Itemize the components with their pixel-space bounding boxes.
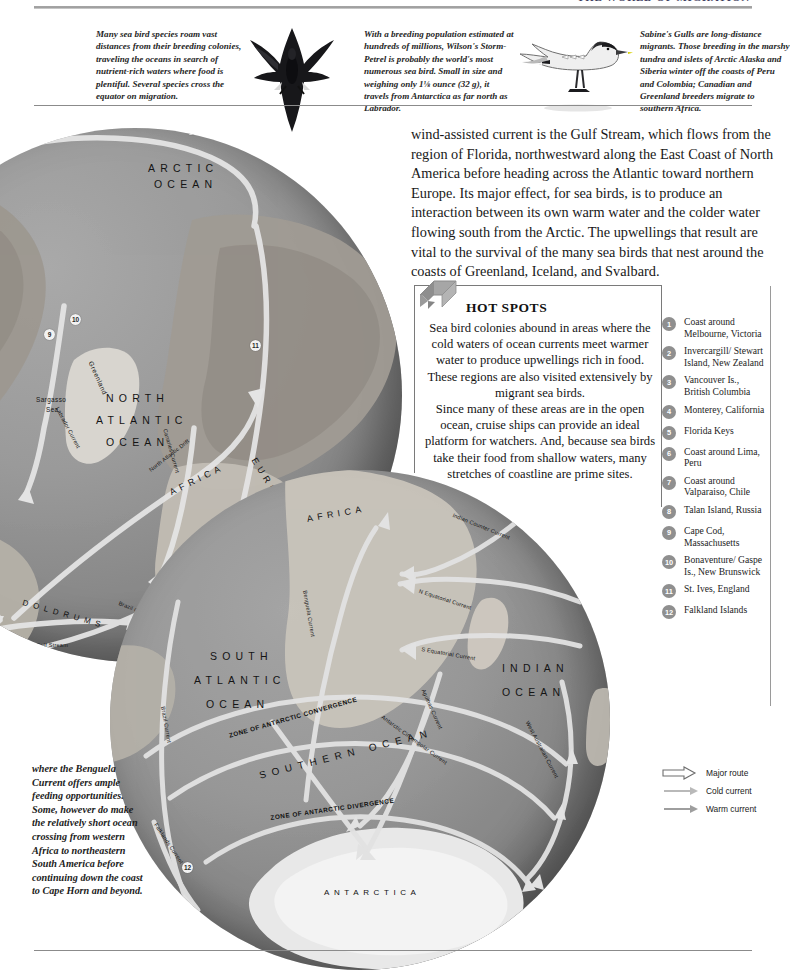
hotspot-list-item[interactable]: 10Bonaventure/ Gaspe Is., New Brunswick	[662, 554, 766, 577]
top-horizontal-rule	[34, 6, 752, 9]
hotspot-list-item[interactable]: 4Monterey, California	[662, 404, 766, 419]
caption-band: Many sea bird species roam vast distance…	[34, 14, 752, 104]
legend-row-major-route: Major route	[662, 764, 772, 782]
hotspot-list-item[interactable]: 5Florida Keys	[662, 425, 766, 440]
legend-label-major-route: Major route	[706, 768, 748, 778]
hot-spots-description: Sea bird colonies abound in areas where …	[422, 320, 658, 482]
hotspot-label: Cape Cod, Massachusetts	[684, 525, 766, 548]
hotspot-label: Invercargill/ Stewart Island, New Zealan…	[684, 345, 766, 368]
hotspot-label: Falkland Islands	[684, 604, 747, 619]
major-route-arrow-icon	[662, 766, 706, 780]
caption-sabines-gulls: Sabine's Gulls are long-distance migrant…	[640, 28, 790, 115]
warm-current-arrow-icon	[662, 802, 706, 816]
hotspot-number-badge: 3	[662, 375, 676, 389]
hotspot-label: Vancouver Is., British Columbia	[684, 374, 766, 397]
hotspot-label: Talan Island, Russia	[684, 504, 761, 519]
hotspot-list-item[interactable]: 12Falkland Islands	[662, 604, 766, 619]
hotspot-list-item[interactable]: 6Coast around Lima, Peru	[662, 446, 766, 469]
hotspot-list-item[interactable]: 2Invercargill/ Stewart Island, New Zeala…	[662, 345, 766, 368]
bottom-horizontal-rule	[34, 950, 752, 951]
hotspot-list-item[interactable]: 8Talan Island, Russia	[662, 504, 766, 519]
hotspot-label: Florida Keys	[684, 425, 734, 440]
legend-label-warm-current: Warm current	[706, 804, 756, 814]
caption-wilsons-storm-petrel: With a breeding population estimated at …	[364, 28, 516, 115]
hotspot-list-item[interactable]: 7Coast around Valparaiso, Chile	[662, 475, 766, 498]
hotspot-list-item[interactable]: 9Cape Cod, Massachusetts	[662, 525, 766, 548]
hotspot-number-badge: 1	[662, 317, 676, 331]
hotspot-number-badge: 11	[662, 584, 676, 598]
hot-spots-paragraph-1: Sea bird colonies abound in areas where …	[427, 321, 652, 400]
hotspot-number-badge: 4	[662, 405, 676, 419]
bottom-left-caption: where the Benguela Current offers ample …	[32, 762, 144, 898]
map-legend: Major route Cold current Warm current	[662, 764, 772, 818]
globe-marker-12[interactable]: 12	[182, 862, 193, 873]
hotspot-list-item[interactable]: 1Coast around Melbourne, Victoria	[662, 316, 766, 339]
legend-row-cold-current: Cold current	[662, 782, 772, 800]
globe-marker-9[interactable]: 9	[44, 329, 55, 340]
hotspot-number-badge: 8	[662, 505, 676, 519]
hotspot-label: St. Ives, England	[684, 583, 750, 598]
ribbon-bookmark-icon	[418, 279, 458, 311]
globe-marker-11[interactable]: 11	[250, 340, 261, 351]
wilsons-storm-petrel-illustration	[234, 20, 354, 132]
southern-hemisphere-globe: AFRICA SOUTH ATLANTIC OCEAN INDIAN OCEAN…	[110, 470, 610, 970]
hot-spots-paragraph-2: Since many of these areas are in the ope…	[422, 401, 658, 482]
right-panel-divider	[770, 286, 771, 706]
hotspot-number-badge: 7	[662, 476, 676, 490]
sabines-gull-illustration	[516, 26, 636, 114]
main-body-paragraph: wind-assisted current is the Gulf Stream…	[411, 125, 777, 282]
page-header-title: THE WORLD OF MIGRATION	[577, 0, 750, 3]
hotspot-label: Coast around Lima, Peru	[684, 446, 766, 469]
hotspot-number-badge: 12	[662, 605, 676, 619]
hotspot-label: Monterey, California	[684, 404, 764, 419]
hotspot-number-badge: 2	[662, 346, 676, 360]
legend-row-warm-current: Warm current	[662, 800, 772, 818]
hot-spots-numbered-list: 1Coast around Melbourne, Victoria2Inverc…	[662, 316, 766, 625]
hotspot-label: Coast around Valparaiso, Chile	[684, 475, 766, 498]
hot-spots-panel-left-edge	[414, 285, 415, 473]
legend-label-cold-current: Cold current	[706, 786, 752, 796]
hotspot-list-item[interactable]: 3Vancouver Is., British Columbia	[662, 374, 766, 397]
cold-current-arrow-icon	[662, 784, 706, 798]
hot-spots-title: HOT SPOTS	[466, 300, 547, 316]
hotspot-number-badge: 6	[662, 447, 676, 461]
hotspot-number-badge: 10	[662, 555, 676, 569]
hotspot-number-badge: 9	[662, 526, 676, 540]
hotspot-label: Coast around Melbourne, Victoria	[684, 316, 766, 339]
caption-sea-bird-species: Many sea bird species roam vast distance…	[96, 28, 246, 102]
hotspot-number-badge: 5	[662, 426, 676, 440]
caption-band-bottom-rule	[34, 105, 752, 106]
hotspot-list-item[interactable]: 11St. Ives, England	[662, 583, 766, 598]
globe-marker-10[interactable]: 10	[70, 314, 81, 325]
hotspot-label: Bonaventure/ Gaspe Is., New Brunswick	[684, 554, 766, 577]
